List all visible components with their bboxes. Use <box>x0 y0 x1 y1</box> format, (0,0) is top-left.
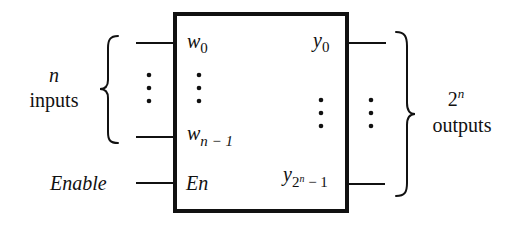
enable-label: Enable <box>49 172 107 194</box>
input-label-wn-1: wn − 1 <box>187 122 233 149</box>
outputs-label: outputs <box>433 114 492 137</box>
inputs-label: inputs <box>30 89 79 112</box>
enable-port-label: En <box>185 172 208 194</box>
output-ellipsis-outer-icon <box>369 98 374 129</box>
input-ellipsis-outer-icon <box>147 73 152 104</box>
output-label-ylast: y2n − 1 <box>281 163 328 190</box>
output-ellipsis-inner-icon <box>319 98 324 129</box>
right-brace-icon <box>396 32 415 196</box>
decoder-diagram: w0 wn − 1 En y0 y2n − 1 n inputs Enable … <box>0 0 522 228</box>
output-label-y0: y0 <box>311 29 329 55</box>
left-brace-icon <box>100 36 118 143</box>
input-label-w0: w0 <box>187 30 208 56</box>
outputs-count-label: 2n <box>448 86 465 110</box>
input-ellipsis-inner-icon <box>197 73 202 104</box>
inputs-count-label: n <box>49 64 59 86</box>
